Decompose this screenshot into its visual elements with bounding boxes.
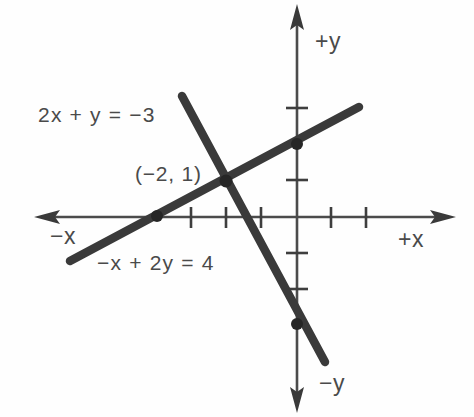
equation-label-line2: −x + 2y = 4 [97,252,215,273]
axis-label-positive-y: +y [315,30,341,53]
point-intersection--2-1 [220,175,233,188]
point-x-intercept--4-0 [151,210,163,222]
point-y-intercept-0-2 [291,138,303,150]
equation-label-line1: 2x + y = −3 [38,104,156,125]
intersection-point-label: (−2, 1) [135,163,202,184]
axis-label-negative-y: −y [319,372,345,395]
point-y-intercept-0--3 [291,318,303,330]
plotted-lines-group [70,96,359,362]
graph-figure: +y −y +x −x 2x + y = −3 −x + 2y = 4 (−2,… [0,0,474,417]
coordinate-plane-svg [0,0,474,417]
axis-label-positive-x: +x [398,228,424,251]
axis-label-negative-x: −x [50,225,76,248]
line-minus-x-plus-2y-equals-4 [70,107,359,261]
